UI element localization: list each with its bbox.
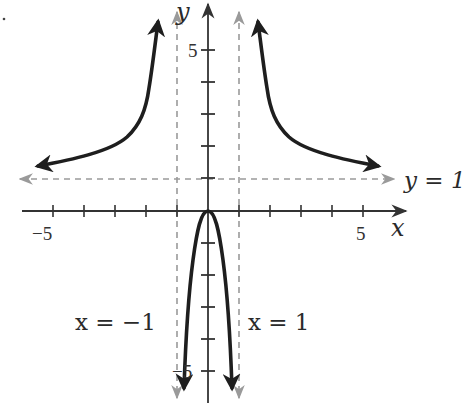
y-axis-label: y [175,0,190,26]
x-axis-label: x [391,214,405,242]
tick-label-y-neg5: −5 [172,361,192,382]
asymptote-label-x-neg1: x = −1 [75,309,156,335]
stray-dot [3,18,6,21]
right-branch-curve [258,22,378,166]
left-branch-curve [38,22,158,166]
tick-label-x-neg5: −5 [32,223,52,244]
asymptote-label-y-1: y = 1 [403,167,466,193]
rational-function-graph: y x 5 −5 5 −5 y = 1 x = −1 x = 1 [0,0,472,403]
asymptote-label-x-1: x = 1 [248,309,310,335]
tick-label-y-5: 5 [188,40,198,61]
tick-label-x-5: 5 [356,223,366,244]
asymptotes [20,12,394,398]
axes [22,4,406,403]
